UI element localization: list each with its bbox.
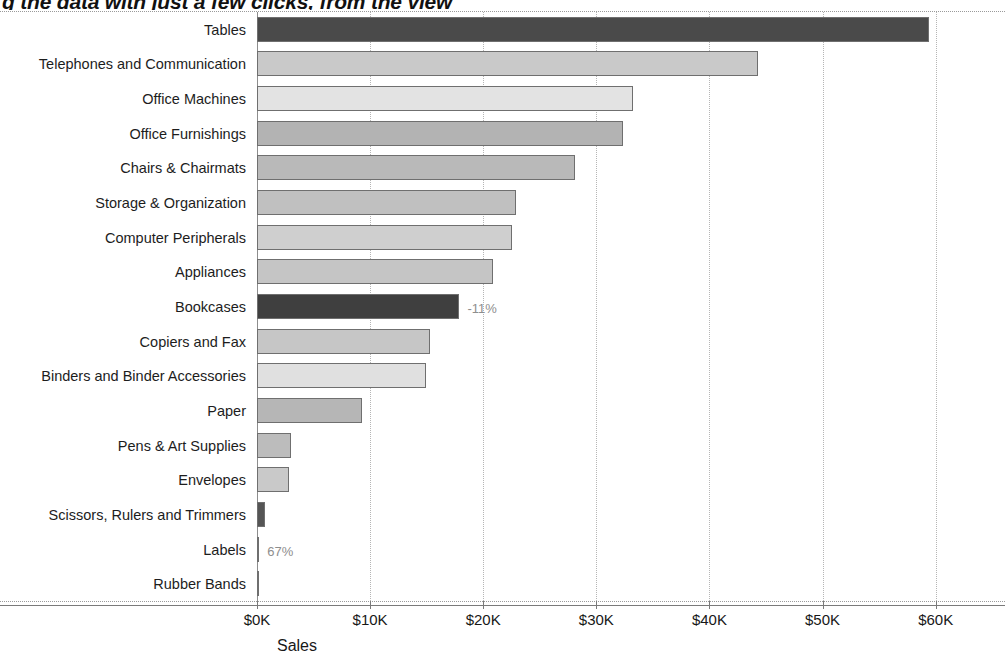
category-label[interactable]: Copiers and Fax	[0, 335, 252, 350]
category-label[interactable]: Appliances	[0, 265, 252, 280]
bar-annotation: 67%	[267, 545, 293, 558]
bar[interactable]	[257, 363, 426, 388]
gridline	[936, 12, 937, 601]
x-axis-title-text: Sales	[277, 637, 317, 655]
category-label[interactable]: Bookcases	[0, 300, 252, 315]
category-axis-labels: TablesTelephones and CommunicationOffice…	[0, 12, 252, 601]
plot-bottom-border	[0, 601, 1005, 602]
category-label[interactable]: Storage & Organization	[0, 196, 252, 211]
bar[interactable]	[257, 155, 575, 180]
category-label[interactable]: Labels	[0, 543, 252, 558]
category-label[interactable]: Telephones and Communication	[0, 57, 252, 72]
category-label[interactable]: Office Furnishings	[0, 127, 252, 142]
bar[interactable]	[257, 259, 493, 284]
bar[interactable]	[257, 502, 265, 527]
category-label[interactable]: Rubber Bands	[0, 577, 252, 592]
x-tick	[483, 601, 484, 609]
x-tick-label: $0K	[217, 612, 297, 627]
bar[interactable]	[257, 467, 289, 492]
x-axis-line	[0, 605, 1005, 606]
x-tick	[936, 601, 937, 609]
category-label[interactable]: Computer Peripherals	[0, 231, 252, 246]
bar[interactable]	[257, 398, 362, 423]
x-tick-label: $20K	[443, 612, 523, 627]
x-tick-label: $40K	[669, 612, 749, 627]
bar[interactable]	[257, 51, 758, 76]
bar[interactable]	[257, 225, 512, 250]
bar-annotation: -11%	[467, 302, 496, 315]
gridline	[823, 12, 824, 601]
bar[interactable]	[257, 86, 633, 111]
x-axis-title: Sales	[0, 637, 1005, 655]
category-label[interactable]: Pens & Art Supplies	[0, 439, 252, 454]
bar[interactable]	[257, 537, 259, 562]
x-tick-label: $10K	[330, 612, 410, 627]
sales-by-subcategory-bar-chart: TablesTelephones and CommunicationOffice…	[0, 0, 1005, 661]
category-label[interactable]: Office Machines	[0, 92, 252, 107]
plot-area: -11%67%	[257, 12, 947, 601]
x-tick	[823, 601, 824, 609]
x-tick	[257, 601, 258, 609]
category-label[interactable]: Envelopes	[0, 473, 252, 488]
category-label[interactable]: Paper	[0, 404, 252, 419]
x-tick	[596, 601, 597, 609]
bar[interactable]	[257, 433, 291, 458]
x-tick	[709, 601, 710, 609]
bar[interactable]	[257, 329, 430, 354]
category-label[interactable]: Chairs & Chairmats	[0, 161, 252, 176]
x-tick-label: $60K	[896, 612, 976, 627]
bar[interactable]	[257, 190, 516, 215]
x-tick-label: $30K	[556, 612, 636, 627]
bar[interactable]	[257, 294, 459, 319]
gridline	[709, 12, 710, 601]
category-label[interactable]: Binders and Binder Accessories	[0, 369, 252, 384]
category-label[interactable]: Tables	[0, 23, 252, 38]
bar[interactable]	[257, 571, 259, 596]
bar[interactable]	[257, 121, 623, 146]
x-tick-label: $50K	[783, 612, 863, 627]
bar[interactable]	[257, 17, 929, 42]
category-label[interactable]: Scissors, Rulers and Trimmers	[0, 508, 252, 523]
x-tick	[370, 601, 371, 609]
